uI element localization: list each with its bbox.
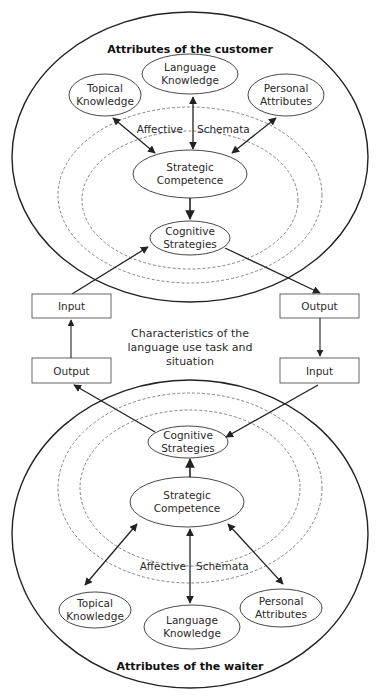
customer-topical-label-2: Knowledge: [76, 95, 134, 107]
waiter-arrow-personal-strategic: [228, 524, 283, 584]
customer-personal-label-1: Personal: [264, 82, 309, 94]
waiter-language-label-2: Knowledge: [163, 627, 221, 639]
task-characteristics-line-2: language use task and: [127, 341, 252, 354]
task-characteristics-group: Input Output Output Input Characteristic…: [32, 294, 359, 383]
waiter-attributes-group: Cognitive Strategies Strategic Competenc…: [12, 380, 368, 688]
customer-affective-label: Affective: [137, 123, 183, 135]
waiter-strategic-label-2: Competence: [154, 502, 221, 514]
customer-personal-label-2: Attributes: [260, 95, 312, 107]
diagram-canvas: Attributes of the customer Topical Knowl…: [0, 0, 380, 698]
customer-topical-label-1: Topical: [86, 82, 123, 94]
waiter-cognitive-label-1: Cognitive: [163, 429, 213, 441]
waiter-affective-label: Affective: [140, 560, 186, 572]
customer-language-label-2: Knowledge: [161, 74, 219, 86]
customer-language-label-1: Language: [164, 61, 216, 73]
waiter-arrow-input-cognitive: [226, 385, 318, 437]
customer-strategic-label-1: Strategic: [166, 161, 214, 173]
right-output-label: Output: [301, 300, 337, 312]
waiter-personal-label-2: Attributes: [255, 608, 307, 620]
waiter-topical-label-2: Knowledge: [66, 610, 124, 622]
waiter-personal-label-1: Personal: [259, 595, 304, 607]
waiter-strategic-label-1: Strategic: [163, 489, 211, 501]
waiter-language-label-1: Language: [166, 614, 218, 626]
customer-cognitive-label-1: Cognitive: [165, 225, 215, 237]
right-input-label: Input: [306, 365, 333, 377]
waiter-topical-label-1: Topical: [76, 597, 113, 609]
customer-attributes-group: Attributes of the customer Topical Knowl…: [12, 12, 368, 302]
customer-schemata-label: Schemata: [197, 123, 250, 135]
customer-strategic-label-2: Competence: [157, 174, 224, 186]
waiter-cognitive-label-2: Strategies: [161, 442, 215, 454]
waiter-arrow-topical-strategic: [85, 524, 137, 585]
task-characteristics-line-1: Characteristics of the: [131, 327, 249, 340]
left-output-label: Output: [53, 365, 89, 377]
left-input-label: Input: [58, 300, 85, 312]
customer-cognitive-label-2: Strategies: [163, 238, 217, 250]
task-characteristics-line-3: situation: [166, 355, 214, 368]
waiter-schemata-label: Schemata: [196, 560, 249, 572]
waiter-title: Attributes of the waiter: [116, 660, 264, 673]
